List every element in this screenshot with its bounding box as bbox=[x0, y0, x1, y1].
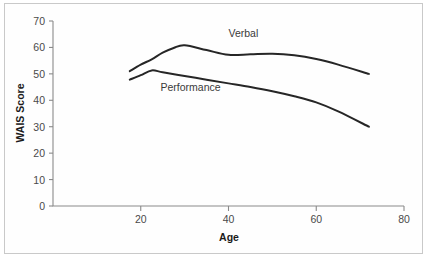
x-tick-label: 40 bbox=[223, 213, 235, 225]
y-tick-label: 40 bbox=[33, 94, 45, 106]
series-line-verbal bbox=[130, 45, 369, 74]
x-tick-label: 60 bbox=[310, 213, 322, 225]
y-tick-label: 60 bbox=[33, 41, 45, 53]
y-tick-label: 30 bbox=[33, 121, 45, 133]
chart-series-labels: VerbalPerformance bbox=[160, 27, 258, 93]
x-tick-label: 20 bbox=[135, 213, 147, 225]
y-tick-label: 70 bbox=[33, 15, 45, 27]
axis-lines bbox=[53, 21, 404, 206]
series-label-performance: Performance bbox=[160, 81, 220, 93]
chart-axes bbox=[53, 21, 404, 206]
y-tick-label: 20 bbox=[33, 147, 45, 159]
y-axis-title: WAIS Score bbox=[14, 83, 26, 142]
series-label-verbal: Verbal bbox=[229, 27, 259, 39]
chart-screenshot: 01020304050607020406080 VerbalPerformanc… bbox=[0, 0, 428, 259]
y-tick-label: 0 bbox=[39, 200, 45, 212]
y-tick-label: 50 bbox=[33, 68, 45, 80]
x-axis-title: Age bbox=[219, 231, 239, 243]
chart-ticks bbox=[49, 21, 404, 211]
wais-score-line-chart: 01020304050607020406080 VerbalPerformanc… bbox=[0, 0, 428, 259]
x-tick-label: 80 bbox=[398, 213, 410, 225]
y-tick-label: 10 bbox=[33, 174, 45, 186]
series-line-performance bbox=[130, 70, 369, 126]
